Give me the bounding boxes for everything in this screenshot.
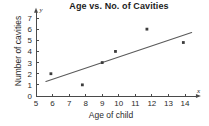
y-tick-label: 5 — [28, 36, 33, 45]
x-axis-arrowhead — [196, 94, 201, 98]
axes-group — [34, 8, 201, 98]
trend-line — [46, 32, 192, 81]
y-tick-label: 7 — [28, 14, 33, 23]
data-point[interactable] — [101, 61, 104, 64]
y-tick-label: 0 — [28, 92, 33, 101]
x-tick-label: 9 — [100, 99, 105, 108]
x-tick-label: 6 — [50, 99, 55, 108]
data-point[interactable] — [114, 50, 117, 53]
scatter-chart: Age vs. No. of Cavities 5678910111213140… — [0, 0, 209, 126]
y-axis-symbol-label: y — [39, 6, 44, 14]
y-tick-label: 2 — [28, 70, 33, 79]
data-point[interactable] — [50, 72, 53, 75]
x-tick-label: 12 — [147, 99, 156, 108]
y-tick-label: 6 — [28, 25, 33, 34]
y-tick-label: 4 — [28, 47, 33, 56]
y-tick-label: 1 — [28, 81, 33, 90]
tick-marks-group — [36, 18, 186, 97]
x-tick-label: 8 — [83, 99, 88, 108]
x-tick-label: 5 — [34, 99, 39, 108]
data-point[interactable] — [81, 83, 84, 86]
tick-labels-group: 56789101112131401234567 — [28, 14, 190, 108]
data-point[interactable] — [182, 41, 185, 44]
x-tick-label: 14 — [181, 99, 190, 108]
x-axis-title: Age of child — [36, 110, 186, 120]
trend-line-group — [46, 32, 192, 81]
x-tick-label: 7 — [67, 99, 72, 108]
axis-symbol-group: yx — [39, 6, 201, 94]
plot-area: 56789101112131401234567 yx — [0, 0, 209, 126]
data-point[interactable] — [146, 28, 149, 31]
x-axis-symbol-label: x — [196, 87, 201, 95]
y-tick-label: 3 — [28, 59, 33, 68]
y-axis-title: Number of cavities — [13, 5, 23, 97]
x-tick-label: 13 — [164, 99, 173, 108]
x-tick-label: 10 — [114, 99, 123, 108]
y-axis-arrowhead — [34, 8, 38, 13]
x-tick-label: 11 — [131, 99, 140, 108]
